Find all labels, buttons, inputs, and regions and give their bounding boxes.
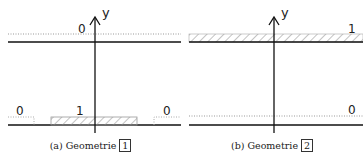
caption-b: (b) Geometrie2 [181,139,363,152]
hatched-band-top [189,34,363,42]
label-top-right: 1 [348,23,356,35]
hatched-region [51,117,137,125]
caption-number-box: 1 [119,139,131,152]
label-bottom-center: 1 [76,105,84,117]
left-dotted-box [8,117,34,125]
label-bottom-left: 0 [16,105,24,117]
panel-geometry-1: y 0 0 1 0 (a) Geometrie1 [0,0,181,158]
label-bottom-right: 0 [348,104,356,116]
caption-a: (a) Geometrie1 [0,139,181,152]
caption-number-box: 2 [301,139,313,152]
label-top: 0 [78,23,86,35]
caption-text: (b) Geometrie [231,140,298,151]
label-bottom-right: 0 [163,105,171,117]
right-dotted-box [154,117,181,125]
y-axis-label: y [102,6,110,19]
geometry-1-drawing [0,0,181,158]
y-axis-label: y [281,6,289,19]
panel-geometry-2: y 1 0 (b) Geometrie2 [181,0,363,158]
geometry-2-drawing [181,0,363,158]
caption-text: (a) Geometrie [50,140,117,151]
